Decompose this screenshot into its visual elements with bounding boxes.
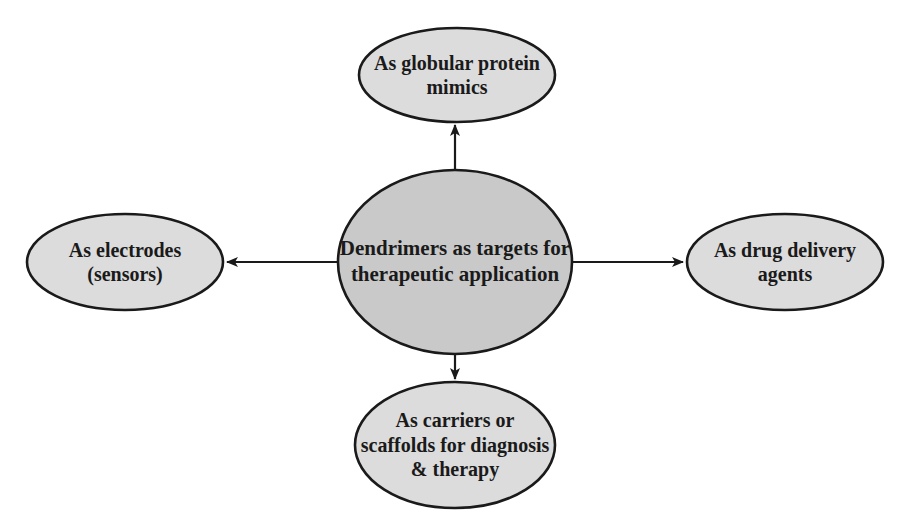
node-label-center: Dendrimers as targets for therapeutic ap… [338, 170, 572, 354]
node-label-top: As globular protein mimics [359, 28, 555, 122]
node-label-right: As drug delivery agents [687, 214, 883, 310]
node-label-left: As electrodes (sensors) [27, 214, 223, 310]
node-label-bottom: As carriers or scaffolds for diagnosis &… [355, 382, 555, 508]
